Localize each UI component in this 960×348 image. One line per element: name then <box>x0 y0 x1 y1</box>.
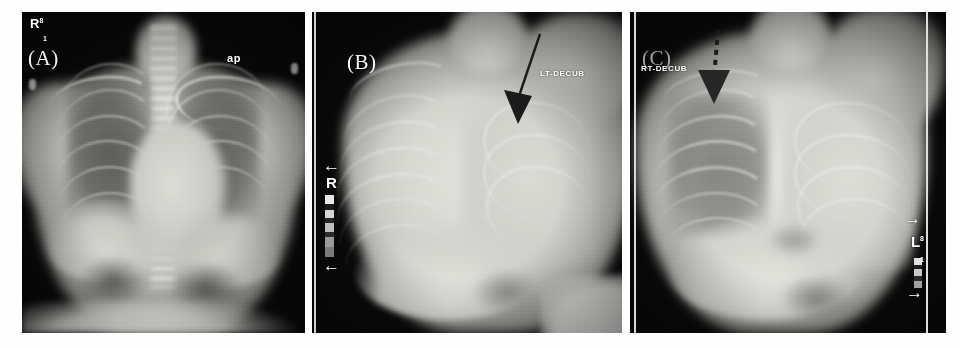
radiograph-figure: R8 1 (A) ap <box>0 0 960 348</box>
solid-pointer-arrow <box>312 12 622 333</box>
side-marker-right: R8 1 <box>30 17 47 43</box>
metal-marker-dot <box>29 79 36 90</box>
side-marker-sup: 8 <box>39 17 43 24</box>
dashed-pointer-arrow <box>630 12 946 333</box>
panel-b[interactable]: (B) LT-DECUB ← R ← <box>312 12 622 333</box>
panel-c[interactable]: (C) RT-DECUB → L8 1 → <box>630 12 946 333</box>
abdominal-gas <box>79 256 147 307</box>
table-edge <box>22 301 305 333</box>
panel-a-label: (A) <box>28 48 59 69</box>
metal-marker-dot <box>291 63 298 74</box>
side-marker-sub: 1 <box>43 35 47 42</box>
panel-a-view-text: ap <box>227 53 241 64</box>
panel-a-film <box>22 12 305 333</box>
side-marker-letter: R <box>30 16 39 31</box>
panel-a[interactable]: R8 1 (A) ap <box>22 12 305 333</box>
